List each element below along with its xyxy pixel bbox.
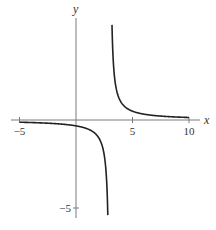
x-axis-label: x xyxy=(203,113,210,127)
curve-right-branch xyxy=(112,25,189,118)
x-tick-label: 10 xyxy=(184,125,196,137)
y-axis-label: y xyxy=(72,2,79,16)
x-tick-label: −5 xyxy=(14,125,26,137)
chart: −5510 −5 x y xyxy=(0,0,216,230)
y-tick-label: −5 xyxy=(59,202,71,214)
x-tick-label: 5 xyxy=(130,125,136,137)
